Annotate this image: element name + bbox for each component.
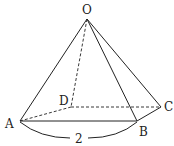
vertex-label-A: A [4,117,14,131]
edge-BC [137,107,161,121]
hidden-edges [20,19,161,121]
vertex-label-D: D [59,94,69,108]
edge-OD [71,19,87,107]
vertex-label-C: C [164,100,173,114]
vertex-label-B: B [139,125,148,139]
pyramid-diagram: O A B C D 2 [0,0,174,146]
dimension-label-AB: 2 [75,132,83,146]
edge-OA [20,19,87,121]
vertex-label-O: O [82,3,92,17]
solid-edges [20,19,161,121]
